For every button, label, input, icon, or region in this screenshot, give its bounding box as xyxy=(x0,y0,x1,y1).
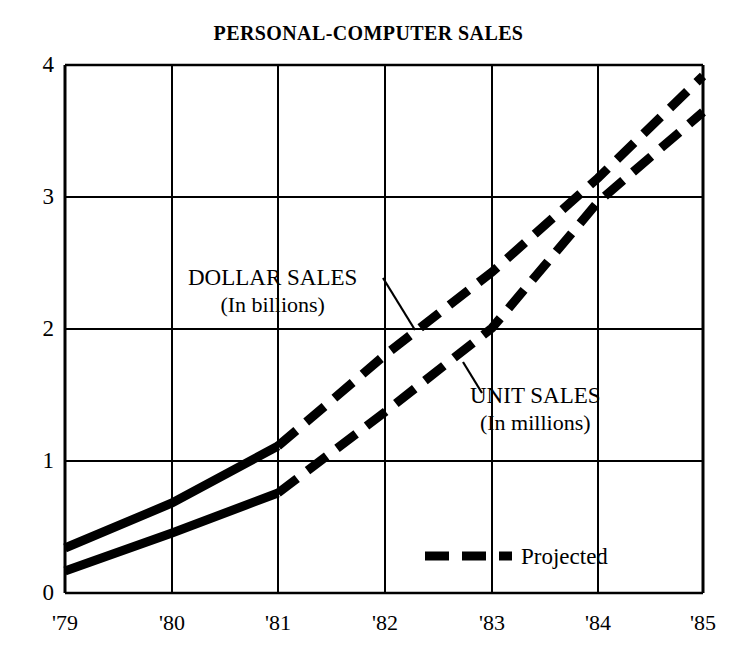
annotation-dollar-sales: DOLLAR SALES (In billions) xyxy=(188,264,357,318)
y-axis-tick-0: 0 xyxy=(14,581,54,604)
y-axis-tick-3: 3 xyxy=(14,185,54,208)
y-axis-tick-2: 2 xyxy=(14,317,54,340)
annotation-unit-sales-sublabel: (In millions) xyxy=(470,409,601,436)
x-axis-tick-81: '81 xyxy=(248,612,308,634)
annotation-unit-sales: UNIT SALES (In millions) xyxy=(470,382,601,436)
y-axis-tick-1: 1 xyxy=(14,449,54,472)
y-axis-tick-4: 4 xyxy=(14,53,54,76)
annotation-dollar-sales-label: DOLLAR SALES xyxy=(188,265,357,290)
x-axis-tick-79: '79 xyxy=(35,612,95,634)
x-axis-tick-84: '84 xyxy=(568,612,628,634)
annotation-unit-sales-label: UNIT SALES xyxy=(470,383,601,408)
x-axis-tick-85: '85 xyxy=(673,612,733,634)
annotation-dollar-sales-sublabel: (In billions) xyxy=(188,291,357,318)
dollar-sales-leader-line xyxy=(383,278,415,330)
legend-item-projected: Projected xyxy=(521,545,608,568)
plot-area xyxy=(0,0,737,663)
chart-figure: PERSONAL-COMPUTER SALES xyxy=(0,0,737,663)
grid-lines xyxy=(65,65,703,593)
x-axis-tick-80: '80 xyxy=(142,612,202,634)
x-axis-tick-83: '83 xyxy=(462,612,522,634)
x-axis-tick-82: '82 xyxy=(355,612,415,634)
